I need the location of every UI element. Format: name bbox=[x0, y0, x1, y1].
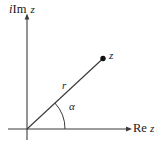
real-axis-label: Rez bbox=[133, 122, 154, 135]
point-z-marker bbox=[100, 56, 105, 61]
real-axis-variable: z bbox=[150, 122, 154, 134]
imaginary-axis-im-symbol: Im bbox=[12, 2, 26, 16]
imaginary-axis-variable: z bbox=[30, 3, 34, 15]
point-z-label: z bbox=[109, 50, 113, 61]
imaginary-axis-label: iImz bbox=[9, 3, 35, 16]
modulus-r-label: r bbox=[62, 80, 66, 91]
argand-diagram-figure: iImz Rez z r α bbox=[0, 0, 167, 147]
radius-vector-line bbox=[27, 59, 103, 130]
angle-alpha-label: α bbox=[69, 101, 75, 112]
angle-arc bbox=[55, 103, 65, 129]
real-axis-arrowhead-icon bbox=[126, 127, 132, 132]
real-axis-re-symbol: Re bbox=[133, 121, 147, 135]
